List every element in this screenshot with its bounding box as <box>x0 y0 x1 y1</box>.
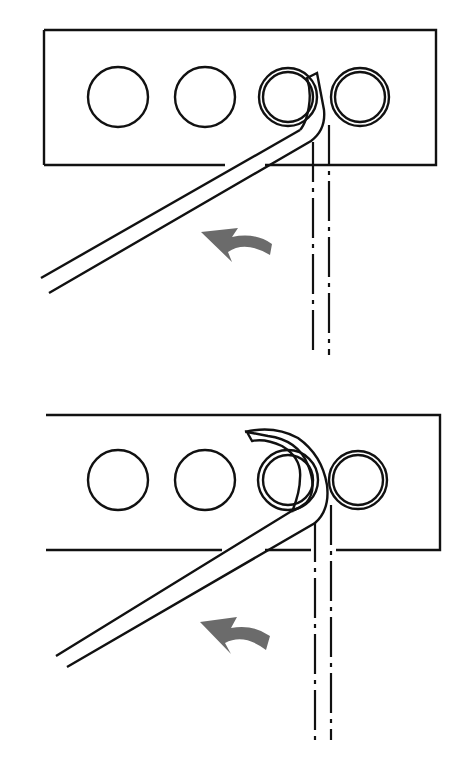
bending-diagram <box>0 0 475 779</box>
curved-arrow-icon <box>201 228 272 262</box>
hole <box>88 67 148 127</box>
hole <box>175 67 235 127</box>
curved-arrow-icon <box>200 617 270 654</box>
bending-plate <box>44 30 436 165</box>
stop-pin <box>331 68 389 126</box>
bending-plate <box>46 415 440 550</box>
stop-pin <box>329 451 387 509</box>
hole <box>88 450 148 510</box>
panel-step-1 <box>41 30 436 355</box>
rod-hook <box>56 432 313 656</box>
hole <box>175 450 235 510</box>
panel-step-2 <box>46 415 440 740</box>
rod-edge <box>41 130 300 278</box>
